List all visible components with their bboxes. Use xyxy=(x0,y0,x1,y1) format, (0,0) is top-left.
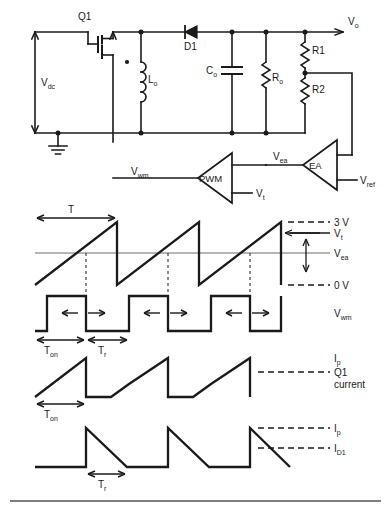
label-ton-vwm: Ton xyxy=(44,345,58,358)
schematic-labels: Vdc Q1 Lo D1 Co Ro R1 R2 Vo Vwm PWM Vt V… xyxy=(41,11,375,201)
resistor-ro xyxy=(262,62,270,88)
d1-current-trace xyxy=(35,428,290,467)
label-period-T: T xyxy=(68,204,74,215)
period-arrow-T xyxy=(37,215,115,221)
label-co: Co xyxy=(206,65,217,78)
label-vwm-waveform: Vwm xyxy=(334,308,352,321)
node-co-gnd xyxy=(230,131,235,136)
node-lo-gnd xyxy=(139,131,144,136)
label-ro: Ro xyxy=(272,72,283,85)
polarity-dot-lo xyxy=(125,60,129,64)
q1-current-trace xyxy=(35,358,250,397)
vt-vea-span-arrow xyxy=(303,239,309,272)
label-r1: R1 xyxy=(312,45,325,56)
waveform-d1-current: Tr Ip ID1 xyxy=(35,423,346,492)
node-co-top xyxy=(230,30,235,35)
label-ip-q1: Ip xyxy=(334,353,341,367)
q1-ton-arrow xyxy=(37,401,84,407)
figure-root: Vdc Q1 Lo D1 Co Ro R1 R2 Vo Vwm PWM Vt V… xyxy=(0,0,391,508)
d1-tr-arrow xyxy=(88,471,125,477)
label-ea: EA xyxy=(309,160,322,171)
label-q1-current-line1: Q1 xyxy=(334,367,348,378)
node-gnd xyxy=(56,131,61,136)
waveform-q1-current: Ton Ip Q1 current xyxy=(35,353,365,422)
label-tr-d1: Tr xyxy=(98,479,107,492)
label-tr-vwm: Tr xyxy=(98,345,107,358)
label-q1: Q1 xyxy=(78,11,92,22)
node-ro-gnd xyxy=(264,131,269,136)
label-q1-current-line2: current xyxy=(334,379,365,390)
label-vea-schematic: Vea xyxy=(273,151,288,164)
label-vdc: Vdc xyxy=(41,77,56,90)
label-ip-d1: Ip xyxy=(334,423,341,437)
vwm-inner-arrows xyxy=(62,310,269,316)
label-vt: Vt xyxy=(334,228,343,241)
schematic-circuit xyxy=(32,26,357,203)
label-pwm: PWM xyxy=(199,173,222,184)
label-ton-q1: Ton xyxy=(44,409,58,422)
node-sw xyxy=(139,30,144,35)
ground-icon xyxy=(49,146,67,154)
resistor-r2 xyxy=(301,78,309,104)
label-vwm-schematic: Vwm xyxy=(131,166,149,179)
label-lo: Lo xyxy=(148,74,158,87)
compare-droplines xyxy=(86,253,250,296)
node-ro-top xyxy=(264,30,269,35)
node-vo xyxy=(303,30,308,35)
node-divider-mid xyxy=(303,71,308,76)
label-vt-schematic: Vt xyxy=(256,188,265,201)
label-0v: 0 V xyxy=(334,280,349,291)
ton-tr-arrows xyxy=(37,337,127,343)
label-d1: D1 xyxy=(184,41,197,52)
label-vo: Vo xyxy=(348,16,359,29)
waveform-vwm: Ton Tr Vwm xyxy=(35,296,352,358)
diode-d1 xyxy=(185,26,197,38)
resistor-r1 xyxy=(301,42,309,68)
inductor-lo xyxy=(141,62,146,102)
label-r2: R2 xyxy=(312,84,325,95)
label-id1: ID1 xyxy=(334,443,346,456)
waveform-sawtooth: T 3 V Vt Vea 0 V xyxy=(35,204,349,296)
label-vea: Vea xyxy=(334,248,349,261)
label-3v: 3 V xyxy=(334,217,349,228)
sawtooth-level-labels: 3 V Vt Vea 0 V xyxy=(334,217,349,291)
vt-pointer xyxy=(285,230,320,236)
label-vref: Vref xyxy=(360,175,375,188)
